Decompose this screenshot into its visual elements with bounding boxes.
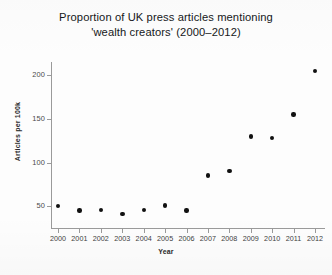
x-axis-tick [187, 229, 188, 233]
x-axis-tick [208, 229, 209, 233]
y-axis-label-text: 150 [19, 114, 45, 123]
plot-area [52, 62, 325, 228]
x-axis-tick [122, 229, 123, 233]
x-axis-tick [315, 229, 316, 233]
x-axis-tick [144, 229, 145, 233]
x-axis-tick [294, 229, 295, 233]
x-axis-tick [251, 229, 252, 233]
y-axis-label-text: 200 [19, 70, 45, 79]
data-point [206, 173, 210, 177]
data-point [163, 203, 167, 207]
y-axis-label-text: 50 [19, 201, 45, 210]
data-point [184, 208, 188, 212]
data-point [99, 208, 103, 212]
data-point [227, 169, 231, 173]
data-point [77, 208, 81, 212]
chart-title-line-2: 'wealth creators' (2000–2012) [0, 25, 332, 40]
x-axis-tick [272, 229, 273, 233]
x-axis-tick [58, 229, 59, 233]
data-point [142, 208, 146, 212]
data-point [56, 204, 60, 208]
data-point [291, 112, 295, 116]
x-axis-tick [101, 229, 102, 233]
data-point [120, 212, 124, 216]
chart-figure: Proportion of UK press articles mentioni… [0, 0, 332, 275]
y-axis-label: 100 [0, 158, 45, 168]
x-axis-tick [165, 229, 166, 233]
y-axis-label: 150 [0, 114, 45, 124]
x-axis-line [51, 228, 325, 229]
x-axis-tick [229, 229, 230, 233]
data-point [270, 136, 274, 140]
chart-title: Proportion of UK press articles mentioni… [0, 10, 332, 39]
data-point [313, 69, 317, 73]
x-axis-title: Year [0, 248, 332, 255]
y-axis-label-text: 100 [19, 158, 45, 167]
y-axis-label: 200 [0, 70, 45, 80]
y-axis-label: 50 [0, 201, 45, 211]
x-axis-label: 2012 [300, 234, 330, 243]
chart-title-line-1: Proportion of UK press articles mentioni… [0, 10, 332, 25]
x-axis-tick [79, 229, 80, 233]
data-point [249, 134, 253, 138]
